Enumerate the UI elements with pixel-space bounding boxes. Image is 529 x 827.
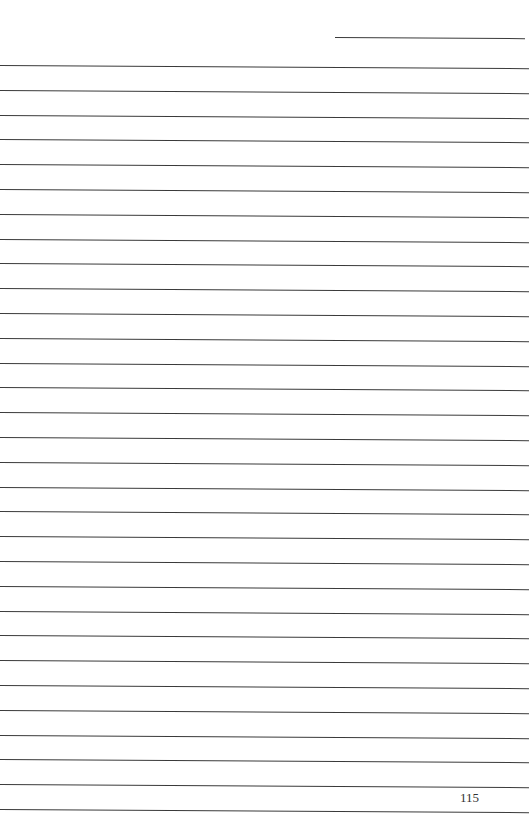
ruled-line (0, 586, 529, 590)
ruled-line (0, 437, 529, 441)
ruled-line (0, 611, 529, 615)
ruled-line (0, 338, 529, 342)
ruled-line (0, 809, 529, 813)
ruled-line (0, 660, 529, 664)
ruled-line (0, 90, 529, 94)
ruled-line (0, 759, 529, 763)
ruled-line (0, 462, 529, 466)
page-number: 115 (460, 790, 479, 806)
ruled-line (0, 685, 529, 689)
ruled-line (0, 164, 529, 168)
ruled-line (0, 710, 529, 714)
ruled-line (0, 561, 529, 565)
ruled-line (0, 412, 529, 416)
ruled-line (0, 511, 529, 515)
ruled-line (0, 363, 529, 367)
header-line (335, 37, 525, 39)
ruled-line (0, 115, 529, 119)
ruled-line (0, 536, 529, 540)
ruled-line (0, 735, 529, 739)
ruled-line (0, 65, 529, 69)
ruled-line (0, 387, 529, 391)
ruled-line (0, 313, 529, 317)
ruled-line (0, 487, 529, 491)
ruled-line (0, 263, 529, 267)
ruled-line (0, 784, 529, 788)
ruled-line (0, 139, 529, 143)
ruled-line (0, 288, 529, 292)
ruled-line (0, 239, 529, 243)
ruled-line (0, 635, 529, 639)
ruled-line (0, 214, 529, 218)
ruled-line (0, 189, 529, 193)
